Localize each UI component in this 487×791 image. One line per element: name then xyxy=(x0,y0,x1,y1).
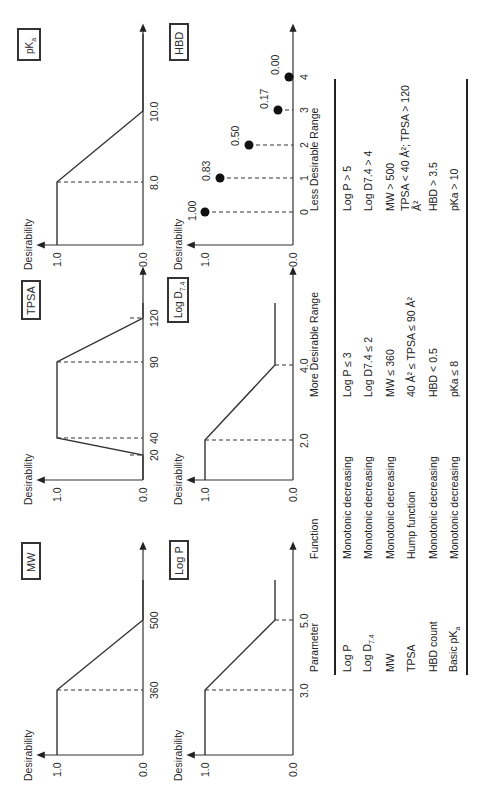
parameter-table: Parameter Function More Desirable Range … xyxy=(300,79,465,675)
chart-title-pka: pKa xyxy=(24,38,37,54)
table-row: Log P Monotonic decreasing Log P ≤ 3 Log… xyxy=(336,79,358,675)
chart-tpsa xyxy=(22,270,143,480)
y-tick: 1.0 xyxy=(51,762,63,777)
x-tick: 120 xyxy=(148,309,160,327)
y-tick: 0.0 xyxy=(137,762,149,777)
figure-page: Desirability Desirability Desirability D… xyxy=(0,0,487,791)
point-label: 0.50 xyxy=(229,125,241,146)
y-axis-label: Desirability xyxy=(172,453,184,505)
x-tick: 90 xyxy=(148,356,160,368)
point-label: 0.83 xyxy=(200,160,212,181)
chart-mw xyxy=(22,543,143,755)
y-tick: 0.0 xyxy=(287,762,299,777)
cell-more: Log D7.4 ≤ 2 xyxy=(362,211,374,397)
table-row: Basic pKa Monotonic decreasing pKa ≤ 8 p… xyxy=(444,79,466,675)
table-row: TPSA Hump function 40 Å² ≤ TPSA ≤ 90 Å² … xyxy=(401,79,423,675)
cell-function: Monotonic decreasing xyxy=(427,397,439,559)
y-tick: 1.0 xyxy=(199,762,211,777)
table-bottom-rule xyxy=(466,79,468,675)
y-tick: 1.0 xyxy=(199,252,211,267)
cell-function: Hump function xyxy=(405,397,417,559)
cell-function: Monotonic decreasing xyxy=(341,397,353,559)
point-label: 0.17 xyxy=(258,88,270,109)
cell-param: HBD count xyxy=(427,559,439,675)
x-tick: 360 xyxy=(148,681,160,699)
x-tick: 20 xyxy=(148,449,160,461)
point-label: 0.00 xyxy=(269,54,281,75)
cell-param: MW xyxy=(384,559,396,675)
cell-param: Log P xyxy=(341,559,353,675)
chart-title-hbd: HBD xyxy=(173,32,185,55)
chart-title-mw: MW xyxy=(25,552,37,572)
cell-less: Log D7.4 > 4 xyxy=(362,79,374,211)
cell-function: Monotonic decreasing xyxy=(362,397,374,559)
chart-logp xyxy=(170,541,293,755)
table-header: Parameter Function More Desirable Range … xyxy=(300,79,328,675)
point-label: 1.00 xyxy=(186,200,198,221)
y-tick: 0.0 xyxy=(137,252,149,267)
y-tick: 0.0 xyxy=(137,487,149,502)
cell-more: MW ≤ 360 xyxy=(384,211,396,397)
cell-less: HBD > 3.5 xyxy=(427,79,439,211)
cell-more: Log P ≤ 3 xyxy=(341,211,353,397)
cell-less: pKa > 10 xyxy=(448,79,460,211)
cell-less: MW > 500 xyxy=(384,79,396,211)
x-tick: 3.0 xyxy=(298,683,310,698)
x-tick: 40 xyxy=(148,432,160,444)
y-tick: 1.0 xyxy=(51,252,63,267)
cell-less: Log P > 5 xyxy=(341,79,353,211)
chart-logd xyxy=(168,270,293,480)
cell-function: Monotonic decreasing xyxy=(384,397,396,559)
cell-param: Basic pKa xyxy=(447,559,461,675)
x-tick: 500 xyxy=(148,611,160,629)
cell-param: TPSA xyxy=(405,559,417,675)
cell-more: 40 Å² ≤ TPSA ≤ 90 Å² xyxy=(405,211,417,397)
header-function: Function xyxy=(308,397,320,559)
chart-title-tpsa: TPSA xyxy=(25,286,37,315)
cell-more: pKa ≤ 8 xyxy=(448,211,460,397)
cell-more: HBD < 0.5 xyxy=(427,211,439,397)
header-less-desirable: Less Desirable Range xyxy=(308,79,320,211)
chart-title-logd: Log D7.4 xyxy=(173,281,186,318)
table-row: HBD count Monotonic decreasing HBD < 0.5… xyxy=(422,79,444,675)
x-tick: 10.0 xyxy=(148,101,160,122)
y-axis-label: Desirability xyxy=(172,218,184,270)
y-tick: 0.0 xyxy=(287,252,299,267)
cell-param: Log D7.4 xyxy=(361,559,375,675)
y-axis-label: Desirability xyxy=(22,453,34,505)
cell-function: Monotonic decreasing xyxy=(448,397,460,559)
y-axis-label: Desirability xyxy=(22,218,34,270)
chart-pka xyxy=(18,27,143,245)
y-axis-label: Desirability xyxy=(172,729,184,781)
table-row: MW Monotonic decreasing MW ≤ 360 MW > 50… xyxy=(379,79,401,675)
y-axis-label: Desirability xyxy=(22,729,34,781)
y-tick: 1.0 xyxy=(199,487,211,502)
y-tick: 1.0 xyxy=(51,487,63,502)
chart-title-logp: Log P xyxy=(173,546,185,575)
x-tick: 8.0 xyxy=(148,175,160,190)
header-parameter: Parameter xyxy=(308,559,320,675)
header-more-desirable: More Desirable Range xyxy=(308,211,320,397)
cell-less: TPSA < 40 Å²; TPSA > 120 Å² xyxy=(399,79,423,211)
table-row: Log D7.4 Monotonic decreasing Log D7.4 ≤… xyxy=(358,79,380,675)
y-tick: 0.0 xyxy=(287,487,299,502)
